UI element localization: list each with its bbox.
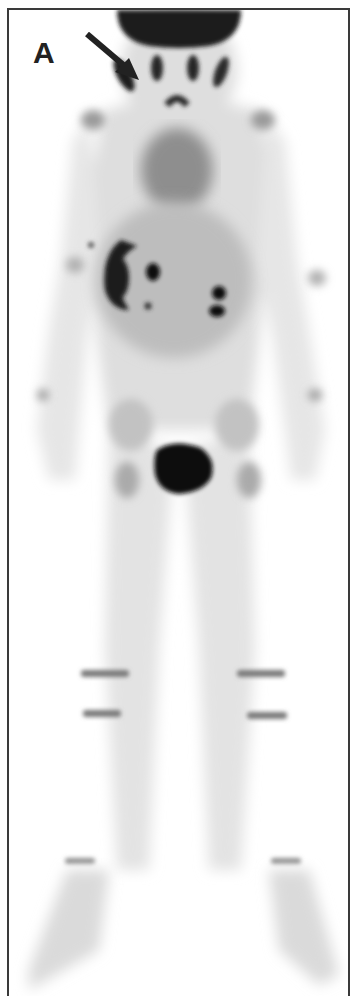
panel-label: A bbox=[33, 36, 55, 70]
scan-figure-frame: A bbox=[7, 8, 350, 996]
arrow-annotation-icon bbox=[85, 32, 143, 84]
whole-body-scan-image bbox=[9, 10, 348, 996]
